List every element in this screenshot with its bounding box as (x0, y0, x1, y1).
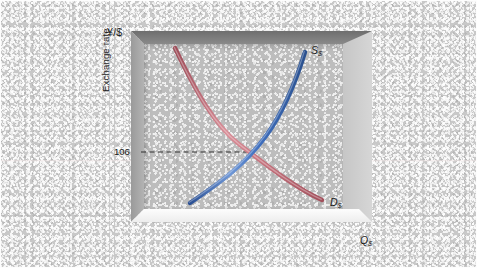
page-border (0, 0, 477, 268)
figure-canvas: ¥/$ Exchange rate 106 S$ D$ Q$ (0, 0, 477, 268)
